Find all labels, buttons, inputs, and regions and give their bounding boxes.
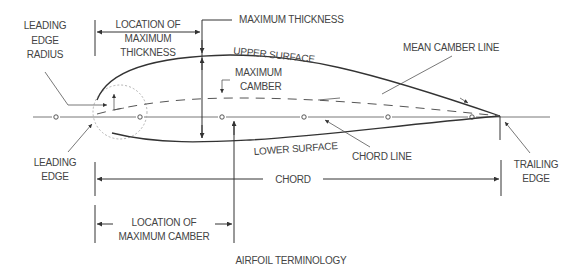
airfoil-diagram: LEADING EDGE RADIUS LOCATION OF MAXIMUM …	[0, 0, 582, 277]
label-leading-edge-radius: LEADING EDGE RADIUS	[24, 20, 67, 60]
svg-text:MAXIMUM: MAXIMUM	[125, 33, 172, 44]
diagram-title: AIRFOIL TERMINOLOGY	[235, 255, 347, 266]
label-chord: CHORD	[275, 174, 311, 185]
label-location-max-camber: LOCATION OF MAXIMUM CAMBER	[118, 217, 209, 242]
svg-text:EDGE: EDGE	[522, 173, 550, 184]
upper-surface-curve	[97, 55, 500, 116]
svg-text:RADIUS: RADIUS	[27, 49, 64, 60]
label-location-max-thickness: LOCATION OF MAXIMUM THICKNESS	[116, 19, 181, 58]
svg-text:MAXIMUM CAMBER: MAXIMUM CAMBER	[118, 231, 209, 242]
label-maximum-camber: MAXIMUM CAMBER	[235, 67, 282, 92]
radius-indicator	[114, 94, 124, 110]
svg-text:LEADING: LEADING	[24, 20, 67, 31]
svg-text:LEADING: LEADING	[34, 157, 77, 168]
svg-text:CAMBER: CAMBER	[240, 81, 282, 92]
lower-surface-curve	[112, 116, 500, 142]
label-leading-edge: LEADING EDGE	[34, 157, 77, 182]
label-lower-surface: LOWER SURFACE	[253, 140, 338, 157]
svg-text:THICKNESS: THICKNESS	[120, 47, 176, 58]
svg-text:EDGE: EDGE	[31, 35, 59, 46]
svg-text:EDGE: EDGE	[41, 171, 69, 182]
label-maximum-thickness: MAXIMUM THICKNESS	[239, 14, 344, 25]
svg-text:MAXIMUM: MAXIMUM	[235, 67, 282, 78]
mean-camber-line	[97, 98, 500, 116]
label-trailing-edge: TRAILING EDGE	[514, 159, 559, 184]
svg-text:LOCATION OF: LOCATION OF	[116, 19, 181, 30]
label-upper-surface: UPPER SURFACE	[233, 45, 316, 65]
svg-text:TRAILING: TRAILING	[514, 159, 559, 170]
label-mean-camber-line: MEAN CAMBER LINE	[403, 42, 500, 53]
label-chord-line: CHORD LINE	[352, 151, 412, 162]
svg-text:LOCATION OF: LOCATION OF	[132, 217, 197, 228]
